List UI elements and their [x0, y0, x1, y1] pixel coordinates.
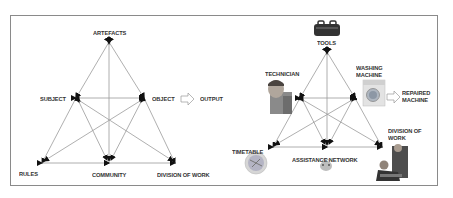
node-division-of-work-line1: DIVISION OF [388, 127, 421, 134]
node-washing-machine-line1: WASHING [356, 64, 383, 71]
left-activity-triangle [42, 42, 175, 163]
node-technician: TECHNICIAN [265, 70, 299, 77]
toolbox-icon [314, 21, 340, 36]
technician-photo [268, 80, 292, 114]
node-subject: SUBJECT [40, 95, 66, 102]
node-rules: RULES [19, 170, 38, 177]
node-output: OUTPUT [200, 95, 223, 102]
node-repaired-machine-line2: MACHINE [402, 96, 428, 103]
activity-diagrams [0, 0, 453, 198]
node-washing-machine-line2: MACHINE [356, 71, 382, 78]
node-division-of-work-line2: WORK [388, 134, 406, 141]
timetable-clock-icon [245, 152, 267, 174]
repaired-machine-arrow-icon [387, 91, 400, 103]
output-arrow-icon [181, 93, 194, 105]
division-of-work-photo [376, 144, 408, 181]
node-repaired-machine-line1: REPAIRED [402, 89, 430, 96]
node-object: OBJECT [152, 95, 175, 102]
node-timetable: TIMETABLE [232, 148, 263, 155]
node-community: COMMUNITY [92, 171, 126, 178]
node-assistance-network: ASSISTANCE NETWORK [292, 156, 358, 163]
node-division-of-work: DIVISION OF WORK [157, 171, 210, 178]
node-artefacts: ARTEFACTS [93, 29, 126, 36]
node-tools: TOOLS [317, 39, 336, 46]
washing-machine-photo [363, 80, 385, 106]
